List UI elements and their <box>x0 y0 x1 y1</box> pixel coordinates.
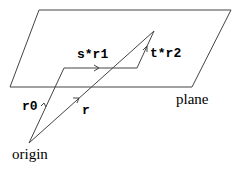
label-origin: origin <box>12 146 48 162</box>
label-r: r <box>82 103 90 118</box>
arrowhead-r0-icon <box>41 103 46 107</box>
label-plane: plane <box>176 91 209 107</box>
label-s-r1: s*r1 <box>77 47 108 62</box>
plane-vector-diagram: s*r1 t*r2 r0 r plane origin <box>0 0 232 169</box>
label-t-r2: t*r2 <box>150 46 181 61</box>
label-r0: r0 <box>22 99 38 114</box>
plane-parallelogram <box>10 10 231 87</box>
